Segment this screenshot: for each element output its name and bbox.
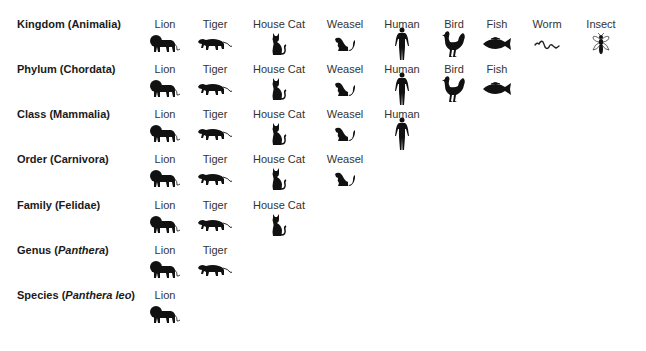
rank-name: Genus <box>17 244 51 256</box>
lion-icon <box>149 215 181 239</box>
animal-name-insect: Insect <box>586 18 615 30</box>
animal-name-tiger: Tiger <box>203 153 228 165</box>
animal-name-lion: Lion <box>155 108 176 120</box>
lion-icon <box>149 79 181 103</box>
taxon-name: Carnivora <box>54 153 105 165</box>
rank-name: Kingdom <box>17 18 65 30</box>
weasel-icon <box>334 171 356 191</box>
animal-name-housecat: House Cat <box>253 199 305 211</box>
tiger-icon <box>197 217 233 237</box>
weasel-icon <box>334 126 356 146</box>
tiger-icon <box>197 262 233 282</box>
lion-icon <box>149 34 181 58</box>
taxon-name: Chordata <box>63 63 111 75</box>
rank-label-species: Species (Panthera leo) <box>17 289 135 301</box>
animal-name-housecat: House Cat <box>253 108 305 120</box>
taxon-name: Panthera leo <box>65 289 131 301</box>
paren-close: ) <box>105 244 109 256</box>
rank-label-family: Family (Felidae) <box>17 199 100 211</box>
rank-label-class: Class (Mammalia) <box>17 108 110 120</box>
rank-label-kingdom: Kingdom (Animalia) <box>17 18 121 30</box>
animal-name-weasel: Weasel <box>327 108 363 120</box>
paren-open: ( <box>51 244 58 256</box>
animal-name-worm: Worm <box>532 18 561 30</box>
animal-name-bird: Bird <box>444 63 464 75</box>
tiger-icon <box>197 36 233 56</box>
house-cat-icon <box>269 213 289 241</box>
rank-name: Species <box>17 289 59 301</box>
human-icon <box>394 72 410 110</box>
house-cat-icon <box>269 32 289 60</box>
lion-icon <box>149 169 181 193</box>
house-cat-icon <box>269 77 289 105</box>
animal-name-tiger: Tiger <box>203 108 228 120</box>
paren-close: ) <box>117 18 121 30</box>
house-cat-icon <box>269 167 289 195</box>
paren-close: ) <box>131 289 135 301</box>
lion-icon <box>149 124 181 148</box>
animal-name-lion: Lion <box>155 18 176 30</box>
animal-name-bird: Bird <box>444 18 464 30</box>
rank-name: Class <box>17 108 46 120</box>
rank-name: Phylum <box>17 63 57 75</box>
animal-name-fish: Fish <box>487 18 508 30</box>
animal-name-lion: Lion <box>155 289 176 301</box>
animal-name-lion: Lion <box>155 244 176 256</box>
rank-label-genus: Genus (Panthera) <box>17 244 109 256</box>
rank-name: Order <box>17 153 47 165</box>
animal-name-lion: Lion <box>155 199 176 211</box>
lion-icon <box>149 305 181 329</box>
animal-name-fish: Fish <box>487 63 508 75</box>
animal-name-lion: Lion <box>155 63 176 75</box>
insect-icon <box>591 33 611 59</box>
paren-close: ) <box>97 199 101 211</box>
animal-name-housecat: House Cat <box>253 18 305 30</box>
fish-icon <box>482 81 512 101</box>
animal-name-weasel: Weasel <box>327 63 363 75</box>
house-cat-icon <box>269 122 289 150</box>
taxon-name: Mammalia <box>53 108 106 120</box>
paren-open: ( <box>52 199 59 211</box>
animal-name-housecat: House Cat <box>253 153 305 165</box>
human-icon <box>394 117 410 155</box>
human-icon <box>394 27 410 65</box>
weasel-icon <box>334 81 356 101</box>
paren-close: ) <box>112 63 116 75</box>
animal-name-tiger: Tiger <box>203 63 228 75</box>
paren-close: ) <box>105 153 109 165</box>
tiger-icon <box>197 171 233 191</box>
bird-icon <box>442 75 466 107</box>
fish-icon <box>482 36 512 56</box>
animal-name-housecat: House Cat <box>253 63 305 75</box>
taxon-name: Panthera <box>58 244 105 256</box>
animal-name-tiger: Tiger <box>203 18 228 30</box>
lion-icon <box>149 260 181 284</box>
weasel-icon <box>334 36 356 56</box>
rank-label-order: Order (Carnivora) <box>17 153 109 165</box>
taxon-name: Animalia <box>71 18 117 30</box>
animal-name-tiger: Tiger <box>203 244 228 256</box>
animal-name-lion: Lion <box>155 153 176 165</box>
bird-icon <box>442 30 466 62</box>
taxon-name: Felidae <box>59 199 97 211</box>
rank-label-phylum: Phylum (Chordata) <box>17 63 115 75</box>
animal-name-weasel: Weasel <box>327 153 363 165</box>
animal-name-tiger: Tiger <box>203 199 228 211</box>
worm-icon <box>534 37 560 55</box>
tiger-icon <box>197 126 233 146</box>
paren-close: ) <box>106 108 110 120</box>
tiger-icon <box>197 81 233 101</box>
paren-open: ( <box>47 153 54 165</box>
animal-name-weasel: Weasel <box>327 18 363 30</box>
rank-name: Family <box>17 199 52 211</box>
